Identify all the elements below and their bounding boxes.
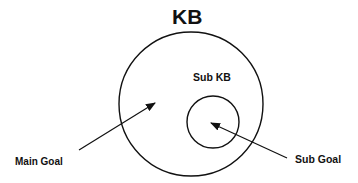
sub-kb-label: Sub KB xyxy=(193,71,231,83)
diagram-title: KB xyxy=(172,5,202,29)
sub-kb-inner-circle xyxy=(187,96,239,148)
kb-outer-circle xyxy=(119,32,263,176)
sub-goal-arrow xyxy=(211,123,287,158)
sub-goal-label: Sub Goal xyxy=(295,153,341,165)
main-goal-arrow xyxy=(79,103,155,150)
main-goal-label: Main Goal xyxy=(15,156,63,167)
